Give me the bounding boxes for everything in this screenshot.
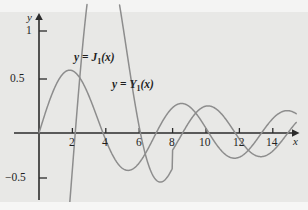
y-axis-label: y <box>27 12 32 23</box>
curve-label-y1-eq: = <box>117 78 129 90</box>
y-tick-label-neg-0-5: −0.5 <box>5 172 26 184</box>
curve-label-y1-arg: (x) <box>140 78 153 90</box>
curve-label-j1-eq: = <box>79 51 91 63</box>
curve-label-j1-arg: (x) <box>101 51 114 63</box>
x-axis-label: x <box>293 136 298 147</box>
y-axis-arrow-icon <box>35 13 43 20</box>
curve-label-j1: y = J1(x) <box>74 52 115 66</box>
y-tick-label-1: 1 <box>26 25 32 37</box>
curve-y1 <box>69 5 296 210</box>
y-tick-label-0-5: 0.5 <box>10 73 24 85</box>
x-tick-label-14: 14 <box>266 137 278 149</box>
plot-area <box>0 0 308 210</box>
x-tick-label-12: 12 <box>233 137 245 149</box>
x-tick-label-4: 4 <box>102 137 108 149</box>
x-tick-label-6: 6 <box>136 137 142 149</box>
curve-label-y1: y = Y1(x) <box>112 79 154 93</box>
axes-group <box>14 13 300 200</box>
curve-j1 <box>39 70 296 170</box>
y-tick-marks <box>39 31 47 178</box>
x-tick-label-10: 10 <box>199 137 211 149</box>
x-tick-label-8: 8 <box>169 137 175 149</box>
bessel-function-figure: y x 1 0.5 −0.5 2 4 6 8 10 12 14 y = J1(x… <box>0 0 308 210</box>
x-tick-label-2: 2 <box>69 137 75 149</box>
